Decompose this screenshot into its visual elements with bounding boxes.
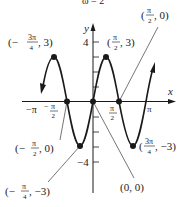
point-min-right — [130, 143, 136, 149]
svg-text:, 3): , 3) — [38, 36, 53, 49]
point-max-left — [51, 54, 57, 60]
svg-text:3π: 3π — [28, 33, 36, 42]
caption-fragment: ω = 2 — [82, 0, 104, 6]
svg-text:(−: (− — [5, 185, 15, 198]
svg-text:(: ( — [141, 9, 145, 22]
svg-text:π: π — [147, 6, 151, 15]
label-zero-right: ( π 2 , 0) — [141, 6, 169, 25]
curve-left-arrow-icon — [40, 83, 46, 94]
point-max-right — [103, 54, 109, 60]
leader-lines — [48, 27, 158, 182]
x-axis: x −π − π 2 π 2 π — [22, 85, 176, 122]
label-origin: (0, 0) — [120, 181, 144, 194]
svg-text:−: − — [44, 102, 49, 111]
svg-text:π: π — [32, 139, 36, 148]
y-tick-label-4: 4 — [83, 36, 89, 48]
y-axis-arrow-icon — [91, 23, 96, 31]
svg-text:, 0): , 0) — [39, 142, 54, 155]
label-max-left: (− 3π 4 , 3) — [8, 33, 53, 52]
svg-text:2: 2 — [33, 150, 37, 158]
svg-text:(: ( — [107, 36, 111, 49]
label-min-left: (− π 4 , −3) — [5, 182, 50, 201]
svg-text:π: π — [22, 182, 26, 191]
y-axis: y 4 −4 — [77, 22, 99, 193]
x-tick-neg-half-pi: − π 2 — [44, 102, 58, 120]
x-tick-half-pi: π 2 — [109, 104, 117, 122]
sine-graph: ω = 2 y 4 −4 x −π − π 2 — [0, 0, 196, 207]
svg-text:, 0): , 0) — [154, 9, 169, 22]
svg-text:π: π — [51, 102, 55, 111]
svg-text:4: 4 — [23, 193, 27, 201]
svg-text:2: 2 — [114, 44, 118, 52]
label-max-right: ( π 2 , 3) — [107, 33, 135, 52]
x-axis-label: x — [167, 85, 173, 97]
label-min-right: ( 3π 4 , −3) — [139, 137, 176, 156]
svg-text:(−: (− — [8, 36, 18, 49]
curve-right-arrow-icon — [150, 62, 155, 73]
svg-text:3π: 3π — [145, 137, 153, 146]
svg-text:π: π — [110, 104, 114, 113]
svg-text:2: 2 — [52, 112, 56, 120]
svg-text:2: 2 — [148, 17, 152, 25]
svg-text:, −3): , −3) — [155, 140, 176, 153]
x-tick-neg-pi: −π — [26, 104, 37, 115]
svg-text:(: ( — [139, 140, 143, 153]
svg-text:π: π — [113, 33, 117, 42]
svg-text:4: 4 — [30, 44, 34, 52]
x-axis-arrow-icon — [168, 99, 176, 104]
svg-text:4: 4 — [148, 148, 152, 156]
label-zero-left: (− π 2 , 0) — [15, 139, 54, 158]
svg-text:2: 2 — [111, 114, 115, 122]
x-tick-pi: π — [147, 104, 152, 114]
svg-text:, −3): , −3) — [29, 185, 50, 198]
y-tick-label-neg4: −4 — [77, 156, 89, 168]
svg-text:, 3): , 3) — [120, 36, 135, 49]
y-axis-label: y — [83, 22, 89, 34]
svg-text:(−: (− — [15, 142, 25, 155]
